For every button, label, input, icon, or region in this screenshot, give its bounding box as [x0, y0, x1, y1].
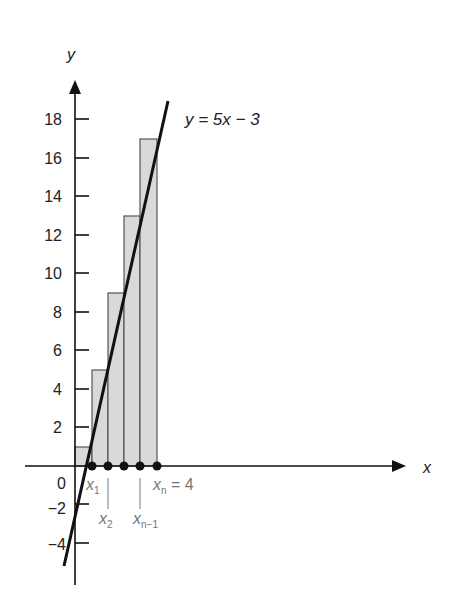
tick-label-8: 8 — [53, 304, 62, 321]
riemann-sum-diagram: 18 16 14 12 10 8 6 4 2 0 −2 −4 y x y = 5… — [0, 0, 457, 609]
tick-label-18: 18 — [44, 111, 62, 128]
tick-label-6: 6 — [53, 342, 62, 359]
y-axis-label: y — [66, 46, 76, 63]
tick-label-2: 2 — [53, 419, 62, 436]
tick-label-neg4: −4 — [48, 536, 66, 553]
tick-label-14: 14 — [44, 188, 62, 205]
x-axis-arrow-icon — [392, 460, 406, 472]
tick-label-10: 10 — [44, 265, 62, 282]
bars — [75, 139, 157, 466]
tick-label-12: 12 — [44, 227, 62, 244]
equation-label: y = 5x − 3 — [184, 110, 260, 129]
tick-label-neg2: −2 — [48, 500, 66, 517]
y-tick-labels: 18 16 14 12 10 8 6 4 2 0 −2 −4 — [44, 111, 66, 553]
tick-label-16: 16 — [44, 150, 62, 167]
bar-3 — [108, 293, 124, 466]
x-axis-label: x — [422, 459, 432, 476]
tick-label-0: 0 — [57, 475, 66, 492]
bar-4 — [124, 216, 140, 466]
xn-label: xn = 4 — [152, 476, 194, 496]
y-axis-arrow-icon — [69, 80, 81, 94]
x1-label: x1 — [85, 476, 100, 496]
tick-label-4: 4 — [53, 381, 62, 398]
x2-label: x2 — [98, 510, 113, 530]
xn-minus-1-label: xn−1 — [132, 510, 158, 530]
